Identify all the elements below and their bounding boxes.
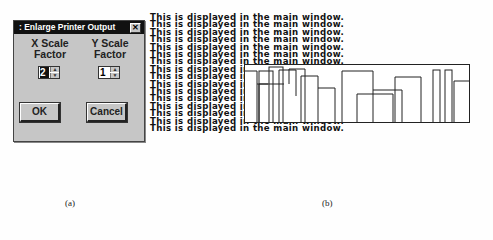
y-scale-value[interactable]: 1 — [100, 67, 109, 78]
rectangle-drawing — [244, 64, 470, 123]
x-spin-down-icon[interactable]: ▼ — [50, 73, 59, 78]
x-scale-spinner[interactable]: 2 ▲ ▼ — [38, 66, 60, 79]
ok-button[interactable]: OK — [20, 103, 60, 122]
x-scale-label-line2: Factor — [25, 49, 75, 60]
text-line: This is displayed in the main window. — [150, 125, 344, 132]
y-spin-down-icon[interactable]: ▼ — [110, 73, 119, 78]
dialog-title: : Enlarge Printer Output — [19, 22, 115, 32]
cancel-button[interactable]: Cancel — [87, 103, 127, 122]
rectangles-graphic — [244, 64, 470, 123]
caption-b: (b) — [322, 198, 333, 208]
caption-a: (a) — [65, 198, 75, 208]
close-button[interactable]: ✕ — [130, 23, 141, 33]
enlarge-printer-output-dialog: : Enlarge Printer Output ✕ X Scale Facto… — [13, 20, 145, 142]
x-scale-value[interactable]: 2 — [40, 67, 49, 78]
y-scale-spinner[interactable]: 1 ▲ ▼ — [98, 66, 120, 79]
dialog-titlebar[interactable]: : Enlarge Printer Output ✕ — [14, 21, 144, 34]
y-scale-factor-label: Y Scale Factor — [85, 38, 135, 60]
y-scale-label-line2: Factor — [85, 49, 135, 60]
x-scale-factor-label: X Scale Factor — [25, 38, 75, 60]
